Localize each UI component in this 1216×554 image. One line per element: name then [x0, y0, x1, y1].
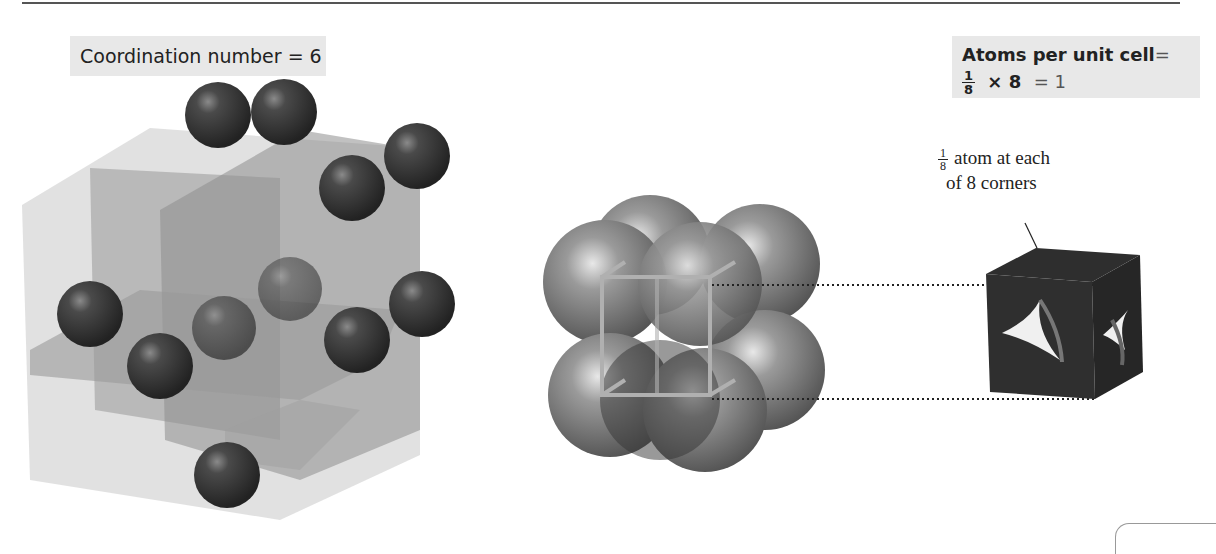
callout-pointer: [1025, 223, 1037, 248]
corner-cube: [986, 248, 1143, 399]
page-corner-tab: [1115, 523, 1216, 554]
packed-unit-cell: [543, 195, 825, 472]
